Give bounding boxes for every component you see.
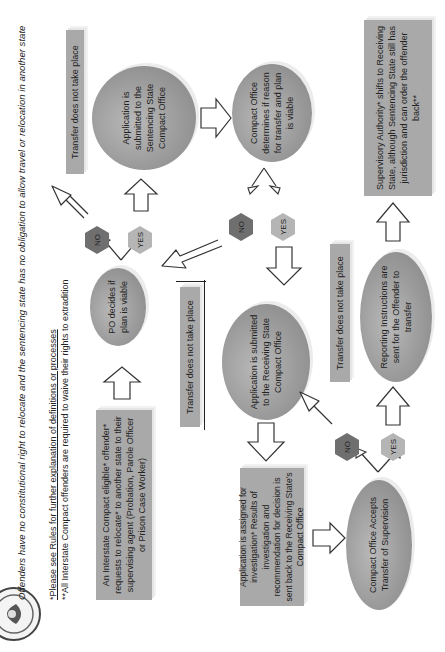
decision-no-3: NO bbox=[334, 432, 360, 462]
investigation-box: Application is assigned for investigatio… bbox=[240, 468, 304, 606]
arrow-right-icon bbox=[102, 366, 142, 400]
arrow-no-1-icon bbox=[48, 182, 88, 222]
sentencing-submit-ellipse: Application is submitted to the Sentenci… bbox=[92, 66, 196, 170]
flowchart-canvas: Offenders have no constitutional right t… bbox=[0, 0, 445, 652]
arrow-down-2-icon bbox=[246, 422, 286, 462]
decision-yes-1: YES bbox=[127, 225, 153, 255]
outcome-no-3-box: Transfer does not take place bbox=[330, 244, 350, 382]
arrow-yes-2-icon bbox=[266, 246, 302, 286]
decision-yes-2: YES bbox=[270, 212, 296, 242]
arrow-yes-3-icon bbox=[376, 386, 410, 426]
outcome-no-2-box: Transfer does not take place bbox=[180, 287, 200, 427]
final-box: Supervisory Authority* shifts to Receivi… bbox=[364, 20, 432, 196]
start-box: An Interstate Compact eligible* offender… bbox=[96, 410, 152, 600]
divider-line bbox=[204, 280, 205, 430]
decision-no-2: NO bbox=[228, 212, 254, 242]
footnote-rules-link[interactable]: *Please see Rules for further explanatio… bbox=[48, 329, 58, 600]
arrow-no-2-icon bbox=[160, 240, 224, 280]
disclaimer-text: Offenders have no constitutional right t… bbox=[16, 26, 27, 600]
reporting-ellipse: Reporting Instructions are sent for the … bbox=[360, 252, 432, 382]
po-decision-ellipse: PO decides if plan is viable bbox=[90, 268, 146, 346]
arrow-right-final-icon bbox=[376, 202, 410, 242]
accepts-ellipse: Compact Office Accepts Transfer of Super… bbox=[346, 480, 412, 610]
arrow-down-1-icon bbox=[200, 98, 232, 138]
divider-line-v bbox=[176, 281, 206, 282]
decision-yes-3: YES bbox=[380, 432, 406, 462]
footnote-extradition: **All Interstate Compact offenders are r… bbox=[60, 280, 70, 601]
arrow-down-3-icon bbox=[312, 522, 346, 554]
fork-arrows-2-icon bbox=[248, 164, 280, 208]
arrow-yes-1-icon bbox=[124, 178, 158, 212]
compact-determines-ellipse: Compact Office determines if reason for … bbox=[232, 64, 312, 162]
outcome-no-1-box: Transfer does not take place bbox=[66, 30, 84, 174]
decision-no-1: NO bbox=[84, 225, 110, 255]
arrow-no-3-icon bbox=[296, 388, 336, 428]
